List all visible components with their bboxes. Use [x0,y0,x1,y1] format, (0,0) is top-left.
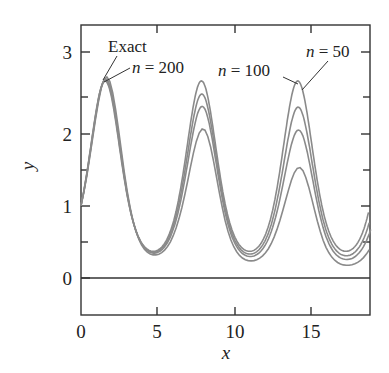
leader-n50 [302,61,328,90]
x-axis-label: x [221,342,231,363]
x-tick-10: 10 [226,321,245,342]
x-tick-0: 0 [76,321,86,342]
y-tick-0: 0 [63,268,73,289]
x-tick-15: 15 [302,321,321,342]
curves [81,77,371,265]
leader-n100 [283,77,298,84]
annotation-exact: Exact [108,37,147,56]
y-tick-3: 3 [63,42,73,63]
y-tick-1: 1 [63,196,73,217]
leader-n200 [104,68,130,82]
chart: 0 5 10 15 3 2 1 0 x y Exact n = 200 n = … [0,0,389,373]
annotation-n50: n = 50 [306,42,350,61]
y-axis-label: y [17,161,38,172]
annotation-n200: n = 200 [132,58,184,77]
annotation-n100: n = 100 [218,61,270,80]
y-tick-2: 2 [63,124,73,145]
x-tick-5: 5 [152,321,162,342]
